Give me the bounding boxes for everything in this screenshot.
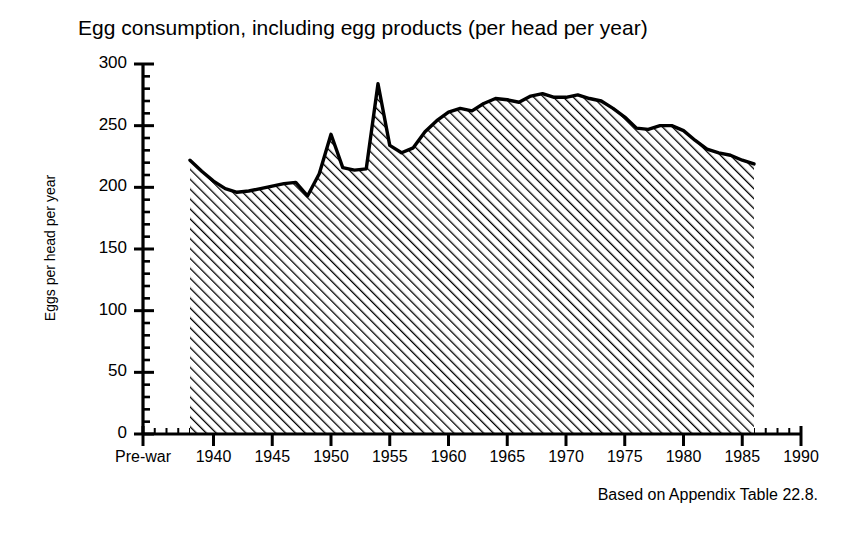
y-axis-title: Eggs per head per year bbox=[42, 138, 58, 358]
chart-title: Egg consumption, including egg products … bbox=[78, 16, 648, 40]
x-tick-label: 1940 bbox=[196, 448, 232, 466]
area-series-fill bbox=[190, 84, 754, 434]
source-note: Based on Appendix Table 22.8. bbox=[598, 486, 818, 504]
x-tick-label: Pre-war bbox=[115, 448, 171, 466]
y-tick-label: 200 bbox=[81, 176, 127, 196]
y-tick-label: 250 bbox=[81, 115, 127, 135]
y-tick-label: 0 bbox=[81, 423, 127, 443]
x-tick-label: 1970 bbox=[548, 448, 584, 466]
x-tick-label: 1985 bbox=[724, 448, 760, 466]
x-tick-label: 1990 bbox=[783, 448, 819, 466]
x-tick-label: 1965 bbox=[489, 448, 525, 466]
x-tick-label: 1960 bbox=[431, 448, 467, 466]
y-tick-label: 300 bbox=[81, 53, 127, 73]
x-tick-label: 1950 bbox=[313, 448, 349, 466]
y-tick-label: 50 bbox=[81, 361, 127, 381]
x-tick-label: 1955 bbox=[372, 448, 408, 466]
x-tick-label: 1975 bbox=[607, 448, 643, 466]
chart-figure: Egg consumption, including egg products … bbox=[0, 0, 850, 544]
x-tick-label: 1980 bbox=[666, 448, 702, 466]
y-tick-label: 150 bbox=[81, 238, 127, 258]
x-tick-label: 1945 bbox=[254, 448, 290, 466]
y-tick-label: 100 bbox=[81, 300, 127, 320]
